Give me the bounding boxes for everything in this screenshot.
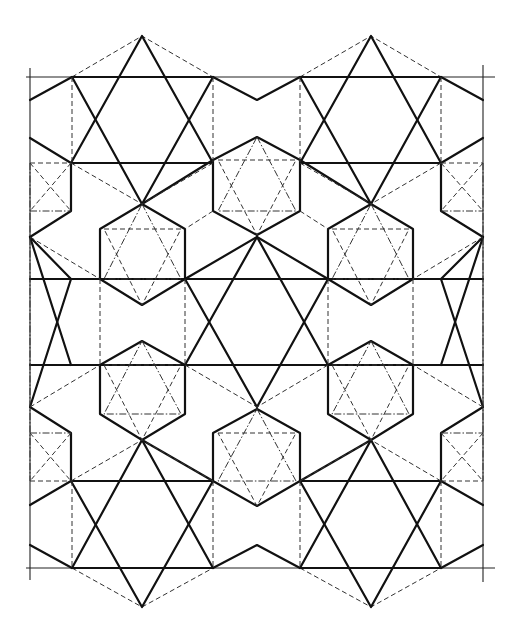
star-bottom-right	[300, 440, 441, 607]
edge-zigzags	[30, 77, 483, 568]
star-bottom-left	[71, 440, 213, 607]
construction-verticals	[30, 77, 483, 568]
hexagon-mid-left-lower	[100, 341, 185, 440]
construction-diagonals	[30, 163, 483, 481]
star-top-right	[300, 36, 441, 204]
hexagon-mid-left-upper	[100, 204, 185, 305]
star-pattern-diagram	[0, 0, 519, 642]
top-dashed-caps	[72, 36, 441, 607]
hexagon-mid-right-lower	[328, 341, 413, 440]
long-diagonals	[142, 160, 371, 481]
construction-horizontals	[30, 163, 483, 481]
star-center	[185, 237, 328, 407]
hexagon-top-center	[213, 137, 300, 235]
hexagon-bottom-center	[213, 409, 300, 506]
star-top-left	[71, 36, 213, 204]
hexagon-mid-right-upper	[328, 204, 413, 305]
